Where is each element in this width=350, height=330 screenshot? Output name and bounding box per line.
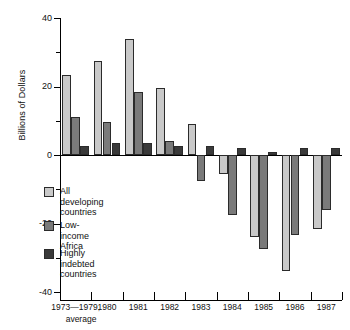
bar bbox=[206, 146, 214, 155]
bar bbox=[228, 155, 236, 215]
bar bbox=[322, 155, 330, 210]
legend-item: Low-income Africa bbox=[44, 220, 89, 252]
bar bbox=[282, 155, 290, 271]
bar bbox=[259, 155, 267, 249]
bar bbox=[291, 155, 299, 235]
legend-swatch bbox=[44, 187, 54, 197]
legend-label: Low-income Africa bbox=[60, 220, 89, 252]
bar bbox=[62, 75, 70, 155]
legend-swatch bbox=[44, 221, 54, 231]
bar bbox=[174, 146, 182, 155]
x-tick bbox=[154, 292, 155, 300]
bar bbox=[94, 61, 102, 155]
bar bbox=[219, 155, 227, 174]
bar bbox=[237, 148, 245, 155]
bar bbox=[250, 155, 258, 237]
bar bbox=[188, 124, 196, 155]
x-tick bbox=[185, 292, 186, 300]
legend-label: Highly indebted countries bbox=[60, 248, 97, 280]
y-tick-label: -40 bbox=[39, 288, 52, 297]
bar bbox=[125, 39, 133, 155]
legend-label: All developing countries bbox=[60, 186, 104, 218]
x-axis-line bbox=[60, 300, 342, 301]
x-tick bbox=[342, 292, 343, 300]
bar bbox=[103, 122, 111, 155]
x-tick bbox=[279, 292, 280, 300]
bar bbox=[313, 155, 321, 229]
plot-area: 40200-20-40 bbox=[60, 18, 342, 292]
bar bbox=[143, 143, 151, 155]
x-tick bbox=[91, 292, 92, 300]
x-tick bbox=[248, 292, 249, 300]
x-tick-label: 1987 bbox=[296, 303, 350, 313]
bar bbox=[156, 88, 164, 155]
x-tick bbox=[311, 292, 312, 300]
bar bbox=[134, 92, 142, 155]
y-tick-label: 40 bbox=[42, 14, 52, 23]
bar bbox=[80, 146, 88, 155]
bar bbox=[71, 117, 79, 155]
y-tick-label: 20 bbox=[42, 82, 52, 91]
bars-container bbox=[60, 18, 342, 292]
chart-root: Billions of Dollars 40200-20-40 1973—197… bbox=[0, 0, 350, 330]
bar bbox=[268, 152, 276, 155]
bar bbox=[197, 155, 205, 181]
bar bbox=[331, 148, 339, 155]
y-axis-title: Billions of Dollars bbox=[17, 25, 27, 185]
x-tick bbox=[217, 292, 218, 300]
x-axis-sublabel: average bbox=[66, 314, 97, 324]
y-tick-label: 0 bbox=[47, 151, 52, 160]
bar bbox=[112, 143, 120, 155]
legend-item: Highly indebted countries bbox=[44, 248, 97, 280]
bar bbox=[300, 148, 308, 155]
legend-swatch bbox=[44, 249, 54, 259]
x-tick bbox=[60, 292, 61, 300]
legend-item: All developing countries bbox=[44, 186, 104, 218]
bar bbox=[165, 141, 173, 155]
x-tick bbox=[123, 292, 124, 300]
